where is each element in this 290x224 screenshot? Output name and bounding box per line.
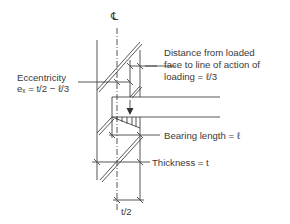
wall-bearing-diagram — [0, 0, 290, 224]
eccentricity-label-formula: eₓ = t/2 − ℓ/3 — [17, 83, 69, 94]
distance-label-line2: face to line of action of — [164, 59, 260, 70]
bearing-length-label: Bearing length = ℓ — [164, 130, 240, 141]
eccentricity-label-title: Eccentricity — [17, 72, 66, 83]
masonry-hatch-lower — [100, 136, 142, 182]
distance-label-line3: loading = ℓ/3 — [164, 71, 217, 82]
bearing-stress-block — [112, 117, 140, 128]
beam — [112, 97, 220, 117]
load-arrow — [127, 100, 134, 115]
thickness-label: Thickness = t — [152, 157, 209, 168]
dim-thickness — [92, 159, 150, 165]
dim-half-thickness — [113, 197, 144, 203]
centerline-symbol: ℄ — [111, 11, 118, 22]
half-thickness-label: t/2 — [121, 206, 132, 217]
masonry-hatch-mid — [97, 117, 114, 135]
distance-label-line1: Distance from loaded — [164, 47, 255, 58]
